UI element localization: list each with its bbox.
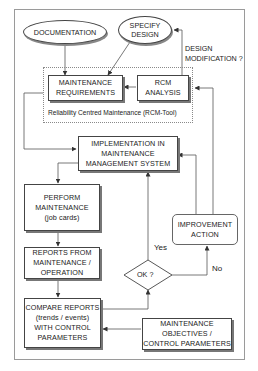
edge-label-no: No [212, 264, 222, 274]
node-rcm-analysis: RCM ANALYSIS [137, 75, 189, 101]
node-implementation: IMPLEMENTATION IN MAINTENANCE MANAGEMENT… [78, 136, 178, 171]
node-improvement-action: IMPROVEMENT ACTION [172, 214, 238, 245]
documentation-label: DOCUMENTATION [34, 28, 96, 37]
node-documentation: DOCUMENTATION [23, 20, 107, 44]
node-maintenance-requirements: MAINTENANCE REQUIREMENTS [48, 75, 123, 101]
node-maintenance-objectives: MAINTENANCE OBJECTIVES / CONTROL PARAMET… [142, 318, 232, 350]
edge-label-design-modification: DESIGN MODIFICATION ? [185, 44, 243, 64]
node-compare-reports: COMPARE REPORTS (trends / events) WITH C… [24, 298, 101, 348]
specify-design-line2: DESIGN [131, 30, 159, 39]
node-perform-maintenance: PERFORM MAINTENANCE (job cards) [24, 184, 100, 231]
specify-design-line1: SPECIFY [130, 21, 161, 30]
node-reports: REPORTS FROM MAINTENANCE / OPERATION [24, 247, 100, 279]
node-specify-design: SPECIFY DESIGN [118, 16, 172, 44]
edge-label-yes: Yes [154, 243, 167, 253]
decision-label: OK ? [137, 270, 153, 280]
rcm-group-caption: Reliability Centred Maintenance (RCM-Too… [48, 108, 177, 118]
